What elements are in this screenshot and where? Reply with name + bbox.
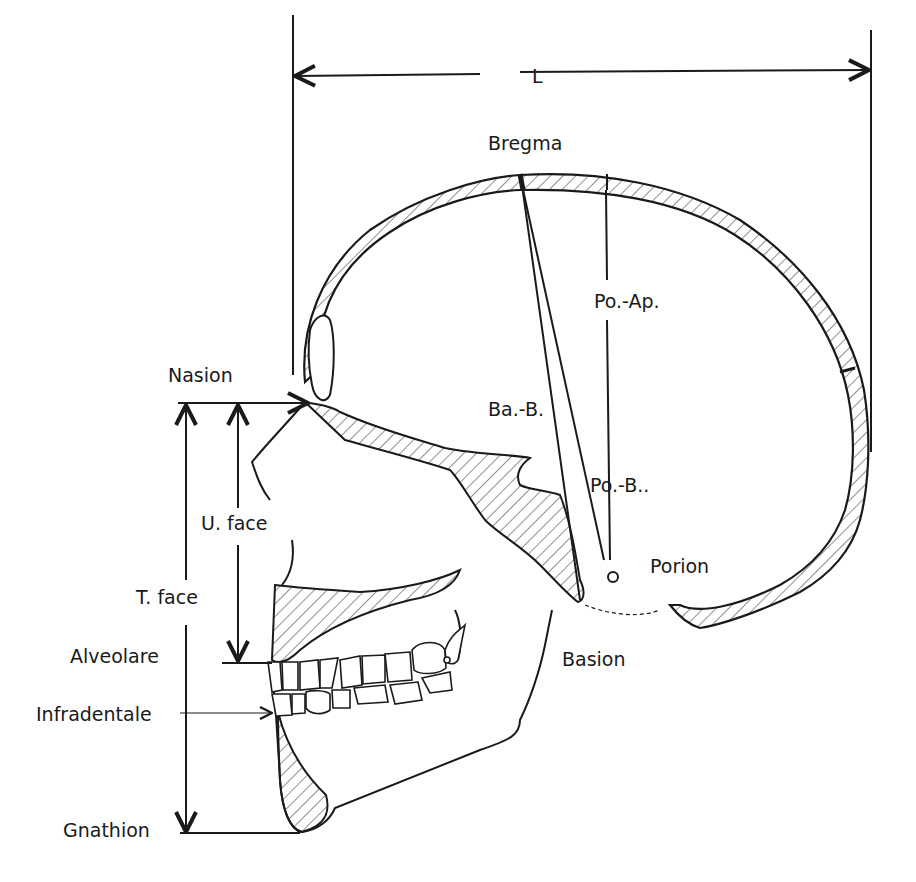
label-alveolare: Alveolare	[70, 647, 159, 666]
label-porion-bregma: Po.-B..	[590, 476, 649, 495]
mandible	[272, 610, 552, 832]
label-infradentale: Infradentale	[36, 705, 152, 724]
label-gnathion: Gnathion	[63, 821, 150, 840]
label-nasion: Nasion	[168, 366, 233, 385]
label-length: L	[532, 67, 543, 86]
label-porion: Porion	[650, 557, 709, 576]
label-upper-face: U. face	[201, 514, 267, 533]
label-porion-apex: Po.-Ap.	[594, 292, 660, 311]
label-basion: Basion	[562, 650, 626, 669]
cranial-vault	[304, 174, 868, 628]
label-total-face: T. face	[136, 588, 198, 607]
label-bregma: Bregma	[488, 134, 562, 153]
label-basion-bregma: Ba.-B.	[488, 400, 544, 419]
skull-diagram	[0, 0, 916, 882]
